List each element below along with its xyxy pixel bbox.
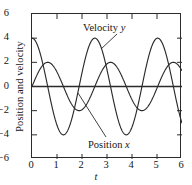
annotation-text: Position (88, 139, 125, 150)
x-tick-label: 3 (96, 160, 116, 171)
annotation-symbol: x (125, 139, 130, 150)
plot-area (31, 13, 181, 158)
x-tick-label: 4 (121, 160, 141, 171)
y-tick-label: 0 (0, 81, 9, 92)
x-tick-label: 2 (71, 160, 91, 171)
x-tick-label: 1 (46, 160, 66, 171)
annotation-leader-lines (78, 34, 117, 137)
x-axis-label: t (0, 171, 192, 182)
y-tick-label: −2 (0, 105, 9, 116)
y-tick-label: 4 (0, 32, 9, 43)
leader-line (101, 34, 117, 49)
annotation-symbol: y (121, 22, 126, 33)
y-axis-label: Position and velocity (14, 17, 25, 157)
annotation-text: Velocity (83, 22, 121, 33)
x-tick-label: 5 (146, 160, 166, 171)
annotation-position: Position x (88, 139, 130, 150)
y-tick-label: 6 (0, 8, 9, 19)
plot-svg (32, 14, 182, 159)
leader-line (78, 93, 106, 137)
y-tick-label: −6 (0, 153, 9, 164)
y-tick-label: 2 (0, 56, 9, 67)
chart-figure: Position and velocity −6−4−20246 0123456… (0, 0, 192, 185)
y-tick-label: −4 (0, 129, 9, 140)
x-tick-label: 6 (171, 160, 191, 171)
annotation-velocity: Velocity y (83, 22, 125, 33)
x-tick-label: 0 (21, 160, 41, 171)
